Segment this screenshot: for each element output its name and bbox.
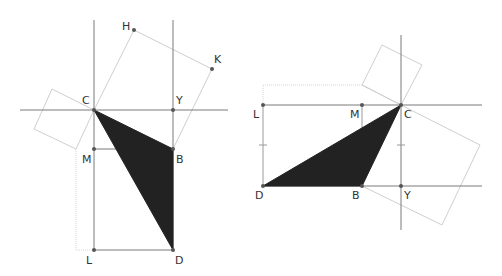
point-l-right [261, 103, 265, 107]
point-b [171, 147, 175, 151]
small-square-right [362, 45, 422, 105]
diagram-canvas: C Y M B L D H K L M [0, 0, 502, 276]
point-m [92, 147, 96, 151]
dotted-rect-right [263, 85, 362, 105]
point-b-right [360, 184, 364, 188]
point-d [171, 248, 175, 252]
label-d-right: D [255, 189, 263, 202]
point-y [171, 108, 175, 112]
label-d: D [175, 254, 183, 267]
label-l-right: L [253, 108, 260, 121]
shaded-triangle-cdb [263, 105, 401, 186]
diag-mc-extension [362, 85, 401, 105]
label-y: Y [175, 94, 183, 107]
point-c-right [399, 103, 403, 107]
label-h: H [122, 20, 130, 33]
point-k [210, 67, 214, 71]
right-figure: L M C D B Y [253, 35, 482, 230]
label-m: M [82, 153, 92, 166]
left-figure: C Y M B L D H K [20, 20, 228, 267]
point-h [132, 28, 136, 32]
label-b-right: B [352, 189, 360, 202]
label-l: L [86, 254, 93, 267]
label-c: C [82, 94, 90, 107]
shaded-triangle-cbd [94, 110, 173, 250]
label-b: B [176, 153, 184, 166]
point-l [92, 248, 96, 252]
point-y-right [399, 184, 403, 188]
point-d-right [261, 184, 265, 188]
point-c [92, 108, 96, 112]
label-c-right: C [404, 108, 412, 121]
label-y-right: Y [403, 189, 411, 202]
label-k: K [214, 53, 222, 66]
label-m-right: M [350, 108, 360, 121]
point-m-right [360, 103, 364, 107]
